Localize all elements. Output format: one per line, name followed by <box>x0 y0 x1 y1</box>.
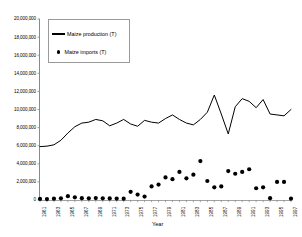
imports-data-point <box>240 170 244 174</box>
imports-data-point <box>205 179 209 183</box>
imports-data-point <box>268 196 272 200</box>
x-tick-label: 1975 <box>139 207 144 217</box>
imports-data-point <box>219 184 223 188</box>
imports-data-point <box>101 196 105 200</box>
x-axis-title: Year <box>152 221 163 227</box>
legend-line-swatch <box>52 33 65 34</box>
maize-chart: 20,000,00018,000,00016,000,00014,000,000… <box>0 0 302 237</box>
y-tick-label: 2,000,000 <box>16 179 36 184</box>
legend-label-imports: Maize imports (T) <box>64 49 106 55</box>
imports-data-point <box>80 196 84 200</box>
x-tick-label: 1997 <box>293 207 298 217</box>
y-tick-label: 18,000,000 <box>14 35 36 40</box>
x-tick-label: 1977 <box>153 207 158 217</box>
y-tick-label: 12,000,000 <box>14 89 36 94</box>
imports-data-point <box>170 177 174 181</box>
x-tick-label: 1993 <box>265 207 270 217</box>
x-tick-label: 1965 <box>70 207 75 217</box>
x-tick-label: 1989 <box>237 207 242 217</box>
imports-data-point <box>115 196 119 200</box>
imports-data-point <box>156 183 160 187</box>
x-tick-label: 1969 <box>98 207 103 217</box>
y-tick-label: 14,000,000 <box>14 71 36 76</box>
imports-data-point <box>59 196 63 200</box>
x-tick-label: 1963 <box>56 207 61 217</box>
x-tick-label: 1987 <box>223 207 228 217</box>
imports-data-point <box>198 159 202 163</box>
imports-data-point <box>122 197 126 201</box>
imports-data-point <box>94 196 98 200</box>
imports-data-point <box>73 195 77 199</box>
legend: Maize production (T) Maize imports (T) <box>48 19 130 63</box>
x-tick-label: 1981 <box>181 207 186 217</box>
x-tick-label: 1985 <box>209 207 214 217</box>
legend-entry-imports: Maize imports (T) <box>52 49 106 55</box>
y-tick-label: 8,000,000 <box>16 125 36 130</box>
legend-entry-production: Maize production (T) <box>52 31 116 37</box>
imports-data-point <box>247 167 251 171</box>
imports-data-point <box>52 197 56 201</box>
imports-data-point <box>87 196 91 200</box>
imports-data-point <box>177 170 181 174</box>
imports-data-point <box>191 173 195 177</box>
imports-data-point <box>282 180 286 184</box>
imports-data-point <box>289 197 293 201</box>
imports-data-point <box>108 196 112 200</box>
x-tick-label: 1983 <box>195 207 200 217</box>
y-tick-label: 16,000,000 <box>14 53 36 58</box>
imports-data-point <box>129 190 133 194</box>
y-tick-label: 6,000,000 <box>16 143 36 148</box>
imports-data-point <box>212 185 216 189</box>
imports-data-point <box>261 185 265 189</box>
imports-data-point <box>254 186 258 190</box>
x-tick-label: 1995 <box>279 207 284 217</box>
imports-data-point <box>226 169 230 173</box>
imports-data-point <box>142 194 146 198</box>
x-tick-label: 1979 <box>167 207 172 217</box>
plot-area <box>0 0 302 237</box>
imports-data-point <box>184 176 188 180</box>
imports-data-point <box>149 184 153 188</box>
maize-imports-points <box>38 159 293 201</box>
imports-data-point <box>45 197 49 201</box>
x-tick-label: 1961 <box>42 207 47 217</box>
legend-label-production: Maize production (T) <box>67 31 116 37</box>
imports-data-point <box>233 172 237 176</box>
imports-data-point <box>136 192 140 196</box>
y-tick-label: 4,000,000 <box>16 161 36 166</box>
legend-dot-swatch <box>57 50 60 53</box>
imports-data-point <box>66 194 70 198</box>
x-tick-label: 1967 <box>84 207 89 217</box>
maize-production-line <box>40 95 291 147</box>
y-tick-label: 0 <box>34 197 36 202</box>
y-tick-label: 20,000,000 <box>14 16 36 21</box>
imports-data-point <box>38 197 42 201</box>
x-tick-label: 1991 <box>251 207 256 217</box>
x-tick-label: 1973 <box>125 207 130 217</box>
y-tick-label: 10,000,000 <box>14 107 36 112</box>
imports-data-point <box>163 175 167 179</box>
x-tick-label: 1971 <box>112 207 117 217</box>
imports-data-point <box>275 180 279 184</box>
